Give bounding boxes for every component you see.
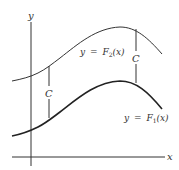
curve-label-f2: y = F2(x) [79,47,125,58]
antiderivative-diagram: y x C C y = F2(x) y = F1(x) [0,0,179,170]
svg-text:y = F1(x): y = F1(x) [123,113,169,124]
curve-label-f1: y = F1(x) [123,113,169,124]
x-axis-label: x [167,151,173,162]
offset-label-right: C [132,53,140,64]
offset-label-left: C [45,88,53,99]
svg-text:y = F2(x): y = F2(x) [79,47,125,58]
curve-f1 [12,81,162,136]
y-axis-label: y [27,10,34,21]
